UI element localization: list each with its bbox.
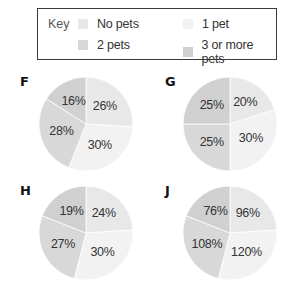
swatch-1-pet: [183, 19, 193, 29]
pie-slice-label: 16%: [61, 94, 85, 108]
legend-key: Key No pets 1 pet 2 pets 3 or more pets: [37, 8, 277, 60]
swatch-no-pets: [78, 19, 88, 29]
pie-slice-label: 25%: [200, 98, 224, 112]
pie-slice-label: 30%: [88, 138, 112, 152]
legend-item-2-pets: 2 pets: [78, 38, 130, 52]
legend-label: No pets: [97, 17, 139, 31]
pie-slice-label: 19%: [59, 204, 83, 218]
pie-slice-label: 25%: [200, 135, 224, 149]
legend-title: Key: [48, 17, 70, 31]
pie-chart-f: 26%30%28%16%: [38, 76, 134, 172]
pie-chart-g: 20%30%25%25%: [182, 76, 278, 172]
pie-slice-label: 30%: [239, 131, 263, 145]
pie-j-label: J: [165, 183, 170, 198]
swatch-2-pets: [78, 40, 88, 50]
pie-chart-j: 96%120%108%76%: [182, 185, 278, 281]
pie-slice-label: 120%: [231, 245, 262, 259]
pie-slice-label: 26%: [93, 99, 117, 113]
pie-h-label: H: [20, 183, 31, 198]
pie-slice-label: 28%: [49, 124, 73, 138]
pie-g-label: G: [165, 74, 176, 89]
pie-slice-label: 27%: [51, 237, 75, 251]
pie-slice-label: 76%: [203, 204, 227, 218]
pie-chart-h: 24%30%27%19%: [38, 185, 134, 281]
pie-slice-label: 30%: [90, 245, 114, 259]
pie-slice-label: 108%: [192, 237, 223, 251]
pie-slice-label: 20%: [233, 95, 257, 109]
pie-f-label: F: [20, 74, 29, 89]
legend-item-3-plus-pets: 3 or more pets: [183, 38, 276, 66]
swatch-3-plus-pets: [183, 47, 193, 57]
pie-slice-label: 96%: [236, 206, 260, 220]
legend-label: 2 pets: [97, 38, 130, 52]
legend-item-1-pet: 1 pet: [183, 17, 229, 31]
legend-label: 1 pet: [202, 17, 229, 31]
legend-label: 3 or more pets: [202, 38, 276, 66]
legend-item-no-pets: No pets: [78, 17, 139, 31]
pie-slice-label: 24%: [92, 206, 116, 220]
